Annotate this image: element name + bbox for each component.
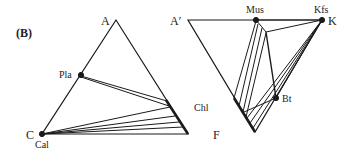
tie-line — [234, 21, 256, 98]
ternary-diagrams: (B) A C Pla Cal Chl F A′ Mus Kfs K Bt — [0, 0, 355, 155]
right-ternary-diagram — [188, 17, 325, 132]
k-feldspar-point — [319, 17, 324, 22]
plagioclase-point — [78, 72, 83, 77]
muscovite-point — [253, 17, 258, 22]
tie-line — [239, 24, 258, 106]
calcite-point — [39, 131, 44, 136]
ferromagnesian-solid-solution — [234, 98, 255, 132]
vertex-k-label: K — [328, 14, 337, 28]
tie-line — [81, 77, 169, 106]
tie-line — [243, 28, 262, 112]
vertex-f-label: F — [213, 128, 220, 142]
chlorite-label: Chl — [194, 102, 209, 113]
tie-line — [42, 116, 175, 134]
vertex-c-label: C — [26, 128, 34, 142]
biotite-label: Bt — [282, 93, 292, 104]
vertex-a-prime-label: A′ — [170, 14, 182, 28]
plagioclase-label: Pla — [59, 69, 72, 80]
vertex-a-label: A — [101, 14, 110, 28]
k-feldspar-label: Kfs — [314, 4, 329, 15]
tie-line — [42, 107, 170, 134]
panel-label: (B) — [16, 26, 32, 40]
biotite-point — [273, 95, 278, 100]
tie-line — [253, 20, 322, 128]
calcite-label: Cal — [35, 139, 49, 150]
muscovite-label: Mus — [246, 4, 264, 15]
